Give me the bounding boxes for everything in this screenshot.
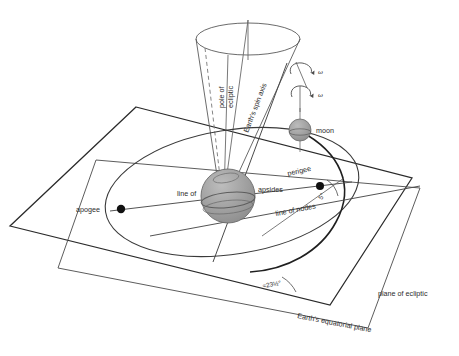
line-of-nodes-label: line of nodes	[275, 201, 317, 218]
pole-of-ecliptic-label-line2: ecliptic	[226, 86, 235, 108]
obliquity-angle-arc	[282, 277, 296, 292]
astronomy-diagram: ω ω 5° ≈23½° pole of ecliptic Earth's sp…	[0, 0, 459, 356]
pole-of-ecliptic-label-line1: pole of	[217, 86, 226, 108]
apogee-label: apogee	[76, 205, 100, 214]
perigee-marker	[316, 182, 324, 190]
obliquity-angle-label: ≈23½°	[262, 279, 282, 289]
earth-rotation-arrow-icon	[290, 62, 314, 88]
earths-equatorial-plane-label: Earth's equatorial plane	[297, 311, 373, 334]
plane-of-ecliptic-label: plane of ecliptic	[378, 289, 428, 298]
moon-label: moon	[316, 126, 334, 135]
omega-lower-label: ω	[318, 91, 323, 99]
omega-upper-label: ω	[318, 68, 323, 76]
apsides-label: apsides	[258, 185, 283, 194]
perigee-label: perigee	[286, 164, 311, 178]
line-of-label: line of	[177, 189, 196, 198]
earths-spin-axis-label: Earth's spin axis	[241, 81, 268, 133]
moon-orbit-foreground-arc	[250, 131, 345, 272]
inclination-angle-arc	[327, 180, 338, 196]
moon-sphere	[289, 108, 311, 152]
inclination-angle-label: 5°	[317, 191, 326, 200]
moon-rotation-arrow-icon	[291, 86, 313, 112]
apogee-marker	[117, 205, 125, 213]
diagram-canvas: ω ω 5° ≈23½° pole of ecliptic Earth's sp…	[0, 0, 459, 356]
earth-sphere	[200, 169, 255, 223]
